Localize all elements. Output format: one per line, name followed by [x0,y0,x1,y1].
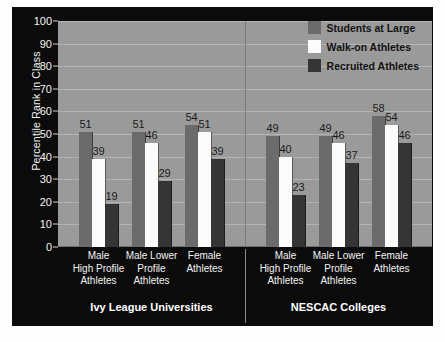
bar-value-label: 46 [140,129,163,141]
bar [372,116,386,247]
group-name-row: Ivy League UniversitiesNESCAC Colleges [58,299,432,323]
legend-item: Recruited Athletes [308,59,419,72]
y-axis-tick-80: 80 [40,60,52,72]
x-axis-category-label: FemaleAthletes [356,250,428,275]
legend-swatch-icon [308,40,321,53]
group-name: NESCAC Colleges [245,301,432,313]
y-axis-tick-60: 60 [40,105,52,117]
bar [145,143,159,247]
bar-value-label: 19 [100,190,123,202]
y-axis-tick-50: 50 [40,128,52,140]
legend-swatch-icon [308,21,321,34]
bar-value-label: 39 [87,145,110,157]
bar [185,125,199,247]
legend-item: Students at Large [308,21,419,34]
group-divider-extension [245,249,246,323]
bar-value-label: 54 [380,111,403,123]
x-axis-category-label: FemaleAthletes [169,250,241,275]
bar-value-label: 46 [327,129,350,141]
bar [345,163,359,247]
group-divider [245,21,246,247]
bar [279,157,293,247]
chart-legend: Students at LargeWalk-on AthletesRecruit… [308,21,419,72]
bar-value-label: 51 [193,118,216,130]
bar-value-label: 37 [340,149,363,161]
bar [105,204,119,247]
chart-figure: Percentile Rank in Class 010203040506070… [0,0,445,342]
bar [319,136,333,247]
bar-value-label: 51 [74,118,97,130]
legend-label: Recruited Athletes [327,60,419,72]
chart-panel: Percentile Rank in Class 010203040506070… [12,7,433,326]
legend-swatch-icon [308,59,321,72]
bar [398,143,412,247]
bar [211,159,225,247]
y-axis-tick-30: 30 [40,173,52,185]
y-axis-tick-labels: 0102030405060708090100 [26,7,58,326]
legend-item: Walk-on Athletes [308,40,419,53]
bar [385,125,399,247]
bar [158,181,172,247]
y-axis-tick-40: 40 [40,151,52,163]
bar-value-label: 39 [206,145,229,157]
bar-value-label: 46 [393,129,416,141]
bar-value-label: 23 [287,181,310,193]
group-name: Ivy League Universities [58,301,245,313]
bar-value-label: 29 [153,167,176,179]
y-axis-tick-0: 0 [46,241,52,253]
bar [132,132,146,247]
bar [292,195,306,247]
bar-value-label: 51 [127,118,150,130]
bar [92,159,106,247]
bar-value-label: 40 [274,143,297,155]
y-axis-tick-70: 70 [40,83,52,95]
y-axis-tick-90: 90 [40,38,52,50]
bar-value-label: 49 [261,122,284,134]
y-axis-tick-10: 10 [40,218,52,230]
y-axis-tick-100: 100 [34,15,52,27]
y-axis-tick-20: 20 [40,196,52,208]
legend-label: Students at Large [327,22,416,34]
legend-label: Walk-on Athletes [327,41,411,53]
